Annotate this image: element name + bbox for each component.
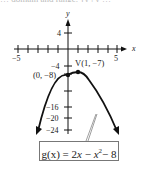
y-axis-label: y <box>65 9 70 18</box>
x-tick-label-neg5: −5 <box>12 54 21 63</box>
x-axis: x −5 5 <box>12 44 136 63</box>
caption-leader-line <box>86 114 96 141</box>
y-intercept-point <box>66 73 70 77</box>
equation-lhs: g(x) <box>41 148 59 160</box>
vertex-label: V(1, −7) <box>75 58 105 68</box>
y-axis-arrow-icon <box>66 19 71 26</box>
vertex-point <box>76 70 80 74</box>
function-equation-label: g(x) = 2x − x2− 8 <box>39 141 119 161</box>
y-tick-label-neg20: −20 <box>46 114 59 123</box>
y-tick-label-neg24: −24 <box>46 126 59 135</box>
x-axis-arrow-icon <box>121 47 127 52</box>
equation-term: = 2 <box>60 148 77 160</box>
y-tick-label-4: 4 <box>57 29 61 38</box>
equation-constant: − 8 <box>102 148 116 160</box>
y-tick-label-neg16: −16 <box>46 103 59 112</box>
x-axis-label: x <box>131 44 136 53</box>
equation-op: − <box>82 148 94 160</box>
x-tick-label-5: 5 <box>114 54 118 63</box>
y-intercept-label: (0, −8) <box>33 70 56 80</box>
